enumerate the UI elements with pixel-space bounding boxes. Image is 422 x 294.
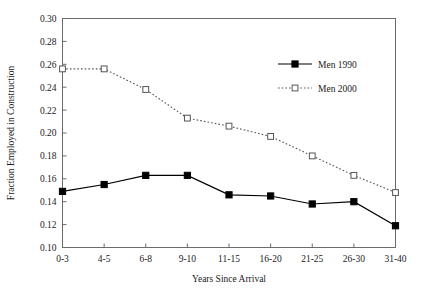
data-point-marker — [351, 199, 357, 205]
data-point-marker — [184, 172, 190, 178]
legend-label-0: Men 1990 — [318, 60, 357, 70]
data-point-marker — [101, 66, 107, 72]
data-point-marker — [60, 66, 66, 72]
y-axis-tick-label: 0.14 — [40, 197, 57, 207]
legend-marker-0 — [292, 61, 298, 67]
data-point-marker — [101, 181, 107, 187]
x-axis-tick-label: 9-10 — [179, 254, 197, 264]
y-axis-tick-label: 0.28 — [40, 37, 57, 47]
data-point-marker — [268, 193, 274, 199]
y-axis-title: Fraction Employed in Construction — [6, 66, 16, 201]
data-point-marker — [143, 87, 149, 93]
chart-figure: 0.100.120.140.160.180.200.220.240.260.28… — [0, 0, 422, 294]
line-chart: 0.100.120.140.160.180.200.220.240.260.28… — [0, 0, 422, 294]
x-axis-tick-label: 11-15 — [218, 254, 240, 264]
y-axis-tick-label: 0.12 — [40, 220, 57, 230]
plot-area-border — [63, 19, 396, 248]
data-point-marker — [143, 172, 149, 178]
y-axis-tick-label: 0.16 — [40, 174, 57, 184]
x-axis-tick-label: 31-40 — [384, 254, 406, 264]
x-axis-tick-label: 21-25 — [301, 254, 323, 264]
data-point-marker — [226, 192, 232, 198]
x-axis-tick-label: 6-8 — [139, 254, 152, 264]
x-axis-title: Years Since Arrival — [192, 274, 266, 284]
x-axis-tick-label: 0-3 — [56, 254, 69, 264]
y-axis-tick-label: 0.24 — [40, 83, 57, 93]
y-axis-tick-label: 0.18 — [40, 151, 57, 161]
y-axis-tick-label: 0.22 — [40, 106, 57, 116]
y-axis-tick-label: 0.30 — [40, 14, 57, 24]
data-point-marker — [309, 201, 315, 207]
data-point-marker — [309, 153, 315, 159]
data-point-marker — [393, 190, 399, 196]
y-axis-tick-label: 0.20 — [40, 128, 57, 138]
legend-marker-1 — [292, 85, 298, 91]
data-point-marker — [351, 172, 357, 178]
data-point-marker — [392, 223, 398, 229]
x-axis-tick-label: 16-20 — [260, 254, 282, 264]
legend-label-1: Men 2000 — [318, 84, 357, 94]
x-axis-tick-label: 26-30 — [343, 254, 365, 264]
data-point-marker — [184, 115, 190, 121]
data-point-marker — [226, 123, 232, 129]
data-point-marker — [59, 188, 65, 194]
y-axis-tick-label: 0.10 — [40, 243, 57, 253]
y-axis-tick-label: 0.26 — [40, 60, 57, 70]
data-point-marker — [268, 134, 274, 140]
x-axis-tick-label: 4-5 — [98, 254, 111, 264]
